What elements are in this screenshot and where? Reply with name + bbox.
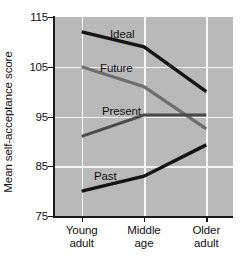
x-tick-label: Olderadult bbox=[171, 224, 241, 250]
y-tick-mark bbox=[48, 117, 53, 118]
series-label-ideal: Ideal bbox=[110, 28, 134, 40]
series-label-future: Future bbox=[100, 62, 133, 74]
y-tick-label: 75 bbox=[24, 211, 48, 222]
x-tick-label-line: Older bbox=[171, 224, 241, 237]
series-line-present bbox=[82, 115, 207, 136]
x-tick-label-line: age bbox=[109, 237, 179, 250]
y-tick-mark bbox=[48, 166, 53, 167]
x-tick-label: Middleage bbox=[109, 224, 179, 250]
x-tick-label-line: Young bbox=[47, 224, 117, 237]
x-tick-label: Youngadult bbox=[47, 224, 117, 250]
y-tick-label: 85 bbox=[24, 161, 48, 172]
line-chart: Mean self-acceptance score 115105958575 … bbox=[0, 0, 245, 262]
x-tick-mark bbox=[82, 217, 83, 222]
y-tick-label: 105 bbox=[24, 62, 48, 73]
x-tick-mark bbox=[144, 217, 145, 222]
y-tick-label: 115 bbox=[24, 12, 48, 23]
y-axis-tick-labels: 115105958575 bbox=[22, 0, 48, 262]
series-line-past bbox=[82, 145, 207, 191]
y-tick-mark bbox=[48, 216, 53, 217]
x-tick-mark bbox=[206, 217, 207, 222]
plot-area bbox=[55, 17, 233, 216]
y-tick-label: 95 bbox=[24, 112, 48, 123]
series-line-future bbox=[82, 67, 207, 129]
x-tick-label-line: adult bbox=[47, 237, 117, 250]
y-axis-title: Mean self-acceptance score bbox=[0, 16, 16, 228]
x-tick-label-line: Middle bbox=[109, 224, 179, 237]
series-label-present: Present bbox=[102, 105, 141, 117]
y-tick-mark bbox=[48, 17, 53, 18]
y-tick-mark bbox=[48, 67, 53, 68]
series-lines bbox=[55, 17, 233, 216]
x-tick-label-line: adult bbox=[171, 237, 241, 250]
series-label-past: Past bbox=[94, 170, 117, 182]
